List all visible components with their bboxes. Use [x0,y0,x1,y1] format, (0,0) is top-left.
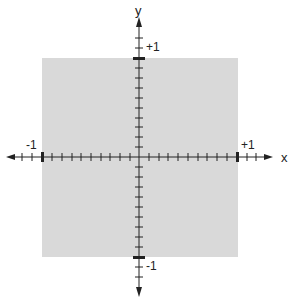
y-min-label: -1 [146,260,157,272]
x-max-label: +1 [241,139,255,151]
y-tick-plus-one [133,57,145,60]
y-tick-minus-one [133,256,145,259]
x-axis-left-arrow-icon [6,154,15,160]
x-axis-right-arrow-icon [264,154,273,160]
y-axis-label: y [135,4,142,17]
x-min-label: -1 [26,139,37,151]
y-max-label: +1 [146,41,160,53]
x-tick-plus-one [236,152,239,162]
x-axis-label: x [281,151,288,164]
x-tick-minus-one [41,152,44,162]
y-axis-up-arrow-icon [136,17,142,27]
y-axis-down-arrow-icon [136,287,142,297]
